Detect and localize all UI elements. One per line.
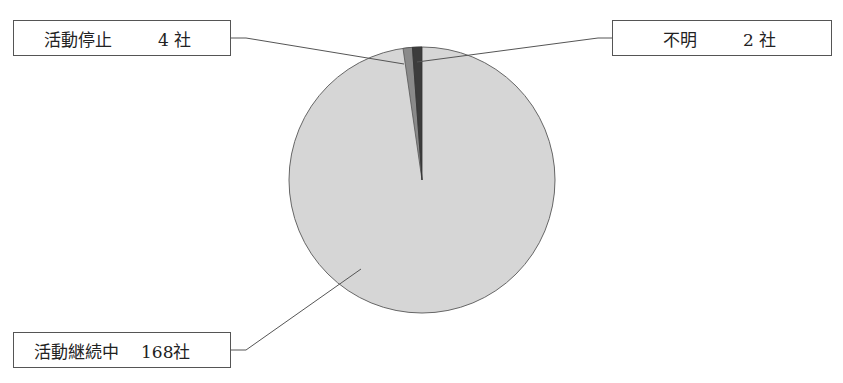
label-unknown: 不明 2 社 bbox=[612, 20, 832, 56]
label-unknown-name: 不明 bbox=[663, 26, 697, 51]
leader-line-stopped-diag bbox=[246, 38, 404, 64]
label-stopped: 活動停止 4 社 bbox=[13, 20, 231, 56]
pie-chart bbox=[0, 0, 843, 383]
label-continuing-value: 168社 bbox=[141, 338, 190, 363]
leader-line-continuing-diag bbox=[246, 269, 361, 350]
label-unknown-value: 2 社 bbox=[743, 26, 776, 51]
label-continuing: 活動継続中 168社 bbox=[13, 332, 231, 368]
label-continuing-name: 活動継続中 bbox=[34, 338, 119, 363]
label-stopped-value: 4 社 bbox=[158, 26, 191, 51]
label-stopped-name: 活動停止 bbox=[44, 26, 112, 51]
